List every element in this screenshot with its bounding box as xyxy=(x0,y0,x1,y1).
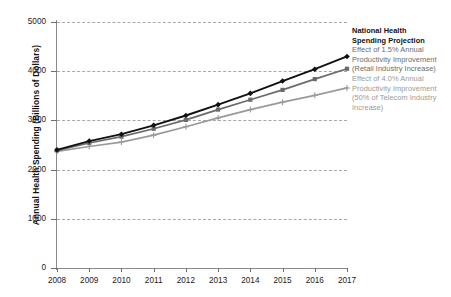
data-point-marker xyxy=(312,66,318,72)
legend-label: (50% of Telecom Industry xyxy=(352,93,451,103)
data-point-marker xyxy=(215,115,221,121)
legend-label: Increase) xyxy=(352,103,451,113)
data-point-marker xyxy=(280,78,286,84)
legend-entry: National HealthSpending Projection xyxy=(352,26,451,45)
y-tick-label: 2000 xyxy=(6,165,46,174)
legend-label: Effect of 1.5% Annual xyxy=(352,45,451,55)
data-point-marker xyxy=(345,67,349,71)
data-point-marker xyxy=(183,113,189,119)
legend-label: Productivity Improvement xyxy=(352,55,451,65)
x-tick xyxy=(89,268,90,272)
data-point-marker xyxy=(312,92,318,98)
x-tick xyxy=(250,268,251,272)
x-tick xyxy=(57,268,58,272)
data-point-marker xyxy=(118,139,124,145)
legend-entry: Effect of 4.0% AnnualProductivity Improv… xyxy=(352,74,451,112)
y-tick-label: 0 xyxy=(6,263,46,272)
x-axis-line xyxy=(56,268,348,269)
legend-entry: Effect of 1.5% AnnualProductivity Improv… xyxy=(352,45,451,74)
chart-figure: Annual Health Spending (Billions of Doll… xyxy=(0,0,451,297)
y-axis-title: Annual Health Spending (Billions of Doll… xyxy=(31,5,41,265)
data-point-marker xyxy=(247,107,253,113)
y-tick-label: 5000 xyxy=(6,17,46,26)
data-point-marker xyxy=(184,118,188,122)
series-line xyxy=(54,85,350,154)
legend-label: Effect of 4.0% Annual xyxy=(352,74,451,84)
y-tick-label: 4000 xyxy=(6,66,46,75)
x-tick-label: 2017 xyxy=(327,276,367,285)
x-tick xyxy=(283,268,284,272)
x-tick xyxy=(218,268,219,272)
data-point-marker xyxy=(151,132,157,138)
data-point-marker xyxy=(248,98,252,102)
data-point-marker xyxy=(280,99,286,105)
data-point-marker xyxy=(313,77,317,81)
data-point-marker xyxy=(183,124,189,130)
data-point-marker xyxy=(216,107,220,111)
data-point-marker xyxy=(280,88,284,92)
data-point-marker xyxy=(215,102,221,108)
plot-area: 010002000300040005000 200820092010201120… xyxy=(57,22,347,268)
x-tick xyxy=(186,268,187,272)
data-point-marker xyxy=(248,91,254,97)
legend-label: National Health xyxy=(352,26,451,36)
data-point-marker xyxy=(344,54,350,60)
y-tick-label: 3000 xyxy=(6,115,46,124)
x-tick xyxy=(315,268,316,272)
x-tick xyxy=(154,268,155,272)
legend-label: Spending Projection xyxy=(352,36,451,46)
legend-label: (Retail Industry Increase) xyxy=(352,64,451,74)
legend-label: Productivity Improvement xyxy=(352,84,451,94)
series-group xyxy=(57,22,347,268)
series-line xyxy=(54,54,350,153)
x-tick xyxy=(347,268,348,272)
chart-legend: National HealthSpending ProjectionEffect… xyxy=(352,26,451,112)
data-point-marker xyxy=(344,85,350,91)
x-tick xyxy=(121,268,122,272)
y-tick-label: 1000 xyxy=(6,214,46,223)
